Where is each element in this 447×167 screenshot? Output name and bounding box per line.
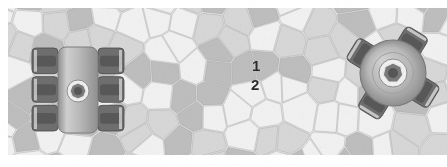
- callout-label-1: 1: [252, 58, 260, 73]
- figure-root: 1 2: [0, 0, 447, 167]
- micrograph-canvas: [0, 0, 447, 167]
- callout-label-2: 2: [251, 77, 259, 92]
